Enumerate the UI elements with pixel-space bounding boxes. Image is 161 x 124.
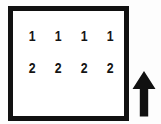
digit-cell: 1 — [28, 28, 36, 43]
digit-row-twos: 2 2 2 2 — [27, 60, 115, 75]
digit-cell: 2 — [80, 60, 88, 75]
digit-row-ones: 1 1 1 1 — [27, 28, 115, 43]
figure-canvas: 1 1 1 1 2 2 2 2 — [0, 0, 161, 124]
digit-cell: 2 — [28, 60, 36, 75]
digit-cell: 1 — [106, 28, 114, 43]
digit-cell: 1 — [80, 28, 88, 43]
bordered-box: 1 1 1 1 2 2 2 2 — [8, 6, 129, 121]
digit-cell: 2 — [106, 60, 114, 75]
up-arrow-icon — [131, 70, 157, 118]
digit-cell: 2 — [54, 60, 62, 75]
digit-cell: 1 — [54, 28, 62, 43]
